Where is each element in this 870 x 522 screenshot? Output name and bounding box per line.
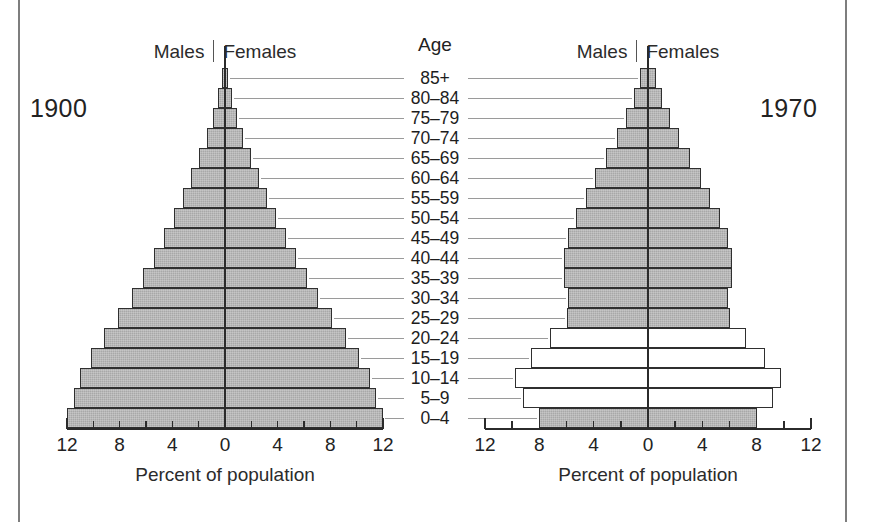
axis-tick: [511, 421, 513, 429]
axis-tick-label: 12: [800, 434, 821, 456]
leader-line-left: [385, 418, 404, 419]
bar-males: [183, 188, 225, 208]
bar-males: [564, 248, 648, 268]
axis-tick-label: 4: [588, 434, 599, 456]
bar-females: [225, 228, 286, 248]
axis-tick: [330, 421, 332, 429]
bar-females: [225, 148, 251, 168]
axis-tick-label: 8: [751, 434, 762, 456]
bar-males: [91, 348, 225, 368]
axis-tick: [66, 418, 68, 429]
axis-tick: [729, 421, 731, 429]
bar-males: [191, 168, 225, 188]
bar-males: [74, 388, 225, 408]
bar-males: [143, 268, 225, 288]
axis-tick: [647, 421, 649, 429]
females-label-right: Females: [646, 41, 719, 63]
bar-females: [225, 128, 243, 148]
axis-tick: [224, 421, 226, 429]
axis-tick: [198, 421, 200, 429]
bar-males: [164, 228, 225, 248]
bar-females: [648, 348, 765, 368]
axis-tick: [145, 421, 147, 429]
bar-females: [225, 268, 307, 288]
bar-females: [225, 288, 318, 308]
bar-males: [515, 368, 648, 388]
bar-males: [606, 148, 648, 168]
bar-females: [225, 328, 346, 348]
bar-females: [648, 308, 730, 328]
pyramid-panel-1900: [67, 68, 383, 428]
bar-males: [523, 388, 648, 408]
bar-females: [225, 88, 232, 108]
bar-females: [648, 288, 728, 308]
sex-divider-right: [636, 40, 637, 62]
axis-tick: [484, 418, 486, 429]
axis-tick: [303, 421, 305, 429]
bar-females: [648, 368, 781, 388]
axis-tick: [382, 418, 384, 429]
bar-males: [626, 108, 648, 128]
bar-females: [648, 328, 746, 348]
axis-tick-label: 8: [534, 434, 545, 456]
axis-title-1970: Percent of population: [478, 464, 818, 486]
axis-tick: [119, 421, 121, 429]
bar-males: [80, 368, 225, 388]
bar-males: [154, 248, 225, 268]
bar-females: [648, 148, 690, 168]
bar-females: [648, 388, 773, 408]
bar-females: [648, 108, 670, 128]
bar-females: [648, 208, 720, 228]
bar-females: [648, 88, 662, 108]
axis-tick-label: 4: [697, 434, 708, 456]
bar-females: [648, 128, 679, 148]
axis-tick: [593, 421, 595, 429]
axis-tick-label: 0: [643, 434, 654, 456]
bar-females: [225, 388, 376, 408]
axis-tick: [810, 418, 812, 429]
bar-males: [595, 168, 648, 188]
bar-males: [564, 268, 648, 288]
bar-females: [225, 308, 332, 328]
bar-males: [617, 128, 648, 148]
bar-males: [174, 208, 225, 228]
population-pyramid-figure: 1900 1970 Age Males Females Males Female…: [0, 0, 870, 522]
females-label-left: Females: [223, 41, 296, 63]
males-label-right: Males: [577, 41, 628, 63]
axis-tick: [356, 421, 358, 429]
pyramid-panel-1970: [485, 68, 811, 428]
sex-divider-left: [213, 40, 214, 62]
bar-females: [225, 348, 359, 368]
bar-females: [648, 268, 732, 288]
bar-males: [207, 128, 225, 148]
axis-tick-labels: 128404812: [0, 434, 870, 460]
bar-females: [225, 208, 276, 228]
axis-tick: [539, 421, 541, 429]
center-axis-line: [647, 46, 649, 428]
axis-title-1900: Percent of population: [55, 464, 395, 486]
bar-females: [648, 228, 728, 248]
axis-tick: [277, 421, 279, 429]
axis-tick: [620, 421, 622, 429]
bar-males: [586, 188, 648, 208]
bar-females: [648, 68, 656, 88]
axis-tick: [93, 421, 95, 429]
axis-tick: [783, 421, 785, 429]
bar-males: [531, 348, 648, 368]
bar-females: [648, 168, 701, 188]
bar-males: [104, 328, 225, 348]
bar-males: [576, 208, 648, 228]
bar-females: [225, 248, 296, 268]
bar-females: [648, 188, 710, 208]
bar-females: [225, 188, 267, 208]
bar-males: [550, 328, 648, 348]
axis-tick: [756, 421, 758, 429]
axis-tick: [172, 421, 174, 429]
axis-tick: [702, 421, 704, 429]
axis-tick: [674, 421, 676, 429]
bar-males: [634, 88, 648, 108]
bar-males: [132, 288, 225, 308]
bar-males: [567, 308, 649, 328]
bar-males: [568, 288, 648, 308]
axis-tick: [251, 421, 253, 429]
